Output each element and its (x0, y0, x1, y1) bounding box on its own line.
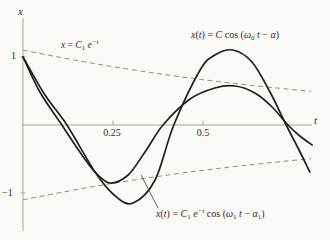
oscillation-figure: x 1 −1 0.25 0.5 t x = C1 e−t x(t) = C co… (0, 0, 330, 240)
xtick-label-025: 0.25 (98, 128, 126, 138)
undamped-cosine-curve (23, 50, 310, 204)
damped-oscillation-curve (23, 57, 312, 183)
y-axis-title: x (18, 6, 23, 17)
plot-svg (0, 0, 330, 240)
lower-envelope-curve (23, 159, 311, 200)
damped-equation-label: x(t) = C1 e−t cos (ω1 t − α1) (156, 208, 265, 221)
x-axis-title: t (314, 115, 317, 126)
envelope-equation-label: x = C1 e−t (61, 39, 98, 52)
ytick-label-1: 1 (11, 51, 16, 61)
xtick-label-05: 0.5 (190, 128, 216, 138)
ytick-label-neg1: −1 (2, 188, 13, 198)
undamped-equation-label: x(t) = C cos (ω0 t − α) (191, 30, 279, 42)
upper-envelope-curve (23, 50, 311, 91)
